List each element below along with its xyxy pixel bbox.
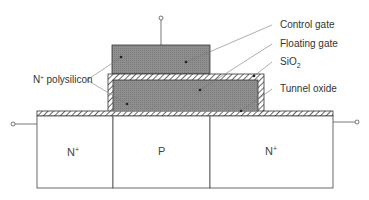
- tunnel-oxide-strip: [37, 111, 333, 116]
- floating-gate-label: Floating gate: [280, 38, 338, 49]
- gate-terminal: [159, 16, 163, 45]
- sio2-label: SiO2: [280, 56, 301, 69]
- channel-label: P: [158, 145, 165, 157]
- memory-cell-diagram: N+ P N+ Control gate Floating gate SiO2 …: [0, 0, 369, 200]
- control-gate-label: Control gate: [280, 19, 335, 30]
- drain-terminal: [333, 120, 359, 124]
- n-polysilicon-label: N+ polysilicon: [33, 74, 93, 85]
- substrate: [37, 116, 333, 188]
- source-terminal: [11, 122, 37, 126]
- floating-gate: [113, 80, 258, 111]
- control-gate: [112, 45, 210, 74]
- tunnel-oxide-label: Tunnel oxide: [280, 83, 337, 94]
